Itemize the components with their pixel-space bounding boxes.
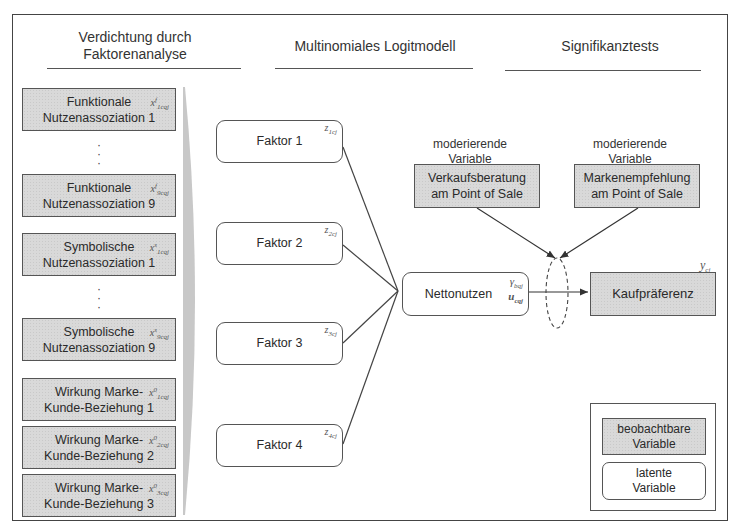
legend-latent: latente Variable — [602, 462, 706, 500]
caption-line1: moderierende — [415, 137, 525, 152]
factor-1: Faktor 1 z1cj — [216, 120, 343, 163]
legend-latent-line2: Variable — [603, 481, 705, 496]
nettonutzen-node: Nettonutzen γbqj ucqj — [402, 272, 529, 316]
factor-variable: z3cj — [325, 309, 337, 355]
factor-variable: z4cj — [325, 411, 337, 457]
factor-4: Faktor 4 z4cj — [216, 424, 343, 467]
moderator-2-caption: moderierende Variable — [575, 137, 685, 167]
factor-label: Faktor 2 — [257, 236, 303, 250]
legend-latent-line1: latente — [603, 466, 705, 481]
factor-3: Faktor 3 z3cj — [216, 322, 343, 365]
moderator-brand-recommendation: Markenempfehlung am Point of Sale — [574, 164, 700, 208]
moderator-line1: Markenempfehlung — [575, 170, 699, 186]
factor-label: Faktor 3 — [257, 336, 303, 350]
moderator-line1: Verkaufsberatung — [415, 170, 539, 186]
moderator-line2: am Point of Sale — [415, 186, 539, 202]
outcome-label: Kaufpräferenz — [612, 286, 694, 301]
legend-observed: beobachtbare Variable — [602, 418, 706, 455]
legend-observed-line2: Variable — [603, 437, 705, 452]
factor-variable: z2cj — [325, 209, 337, 255]
legend-observed-line1: beobachtbare — [603, 422, 705, 437]
moderator-sales-advice: Verkaufsberatung am Point of Sale — [414, 164, 540, 208]
factor-label: Faktor 4 — [257, 438, 303, 452]
factor-2: Faktor 2 z2cj — [216, 222, 343, 265]
nettonutzen-u: ucqj — [508, 275, 523, 322]
moderator-line2: am Point of Sale — [575, 186, 699, 202]
factor-label: Faktor 1 — [257, 134, 303, 148]
moderator-1-caption: moderierende Variable — [415, 137, 525, 167]
caption-line1: moderierende — [575, 137, 685, 152]
nettonutzen-label: Nettonutzen — [425, 287, 492, 301]
factor-variable: z1cj — [325, 107, 337, 153]
outcome-kaufpraeferenz: Kaufpräferenz — [590, 272, 716, 316]
